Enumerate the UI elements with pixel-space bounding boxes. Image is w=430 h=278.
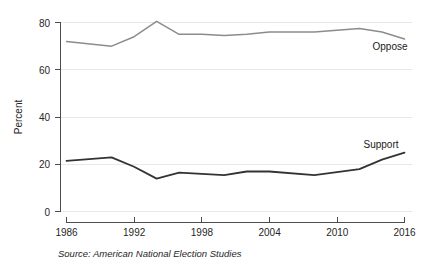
series-line-support xyxy=(67,153,405,179)
x-tick-label-2004: 2004 xyxy=(258,227,281,238)
x-axis: 1986 1992 1998 2004 2010 2016 xyxy=(55,217,416,239)
y-tick-label-80: 80 xyxy=(39,18,51,29)
y-tick-label-40: 40 xyxy=(39,112,51,123)
source-note: Source: American National Election Studi… xyxy=(58,248,242,259)
line-chart: 80 60 40 20 0 Percent 1986 1992 1998 200… xyxy=(0,0,430,278)
x-tick-label-2010: 2010 xyxy=(326,227,349,238)
y-tick-label-20: 20 xyxy=(39,159,51,170)
series-line-oppose xyxy=(67,21,405,46)
series-annotation-oppose: Oppose xyxy=(372,41,407,52)
series-group xyxy=(67,21,405,178)
x-tick-label-2016: 2016 xyxy=(393,227,416,238)
x-tick-label-1986: 1986 xyxy=(55,227,78,238)
x-tick-label-1992: 1992 xyxy=(123,227,146,238)
y-axis: 80 60 40 20 0 xyxy=(39,18,61,218)
gridlines xyxy=(60,23,412,212)
chart-figure: 80 60 40 20 0 Percent 1986 1992 1998 200… xyxy=(0,0,430,278)
y-tick-label-60: 60 xyxy=(39,65,51,76)
x-tick-label-1998: 1998 xyxy=(191,227,214,238)
series-annotation-support: Support xyxy=(363,139,398,150)
y-tick-label-0: 0 xyxy=(44,207,50,218)
y-axis-title: Percent xyxy=(13,100,24,135)
